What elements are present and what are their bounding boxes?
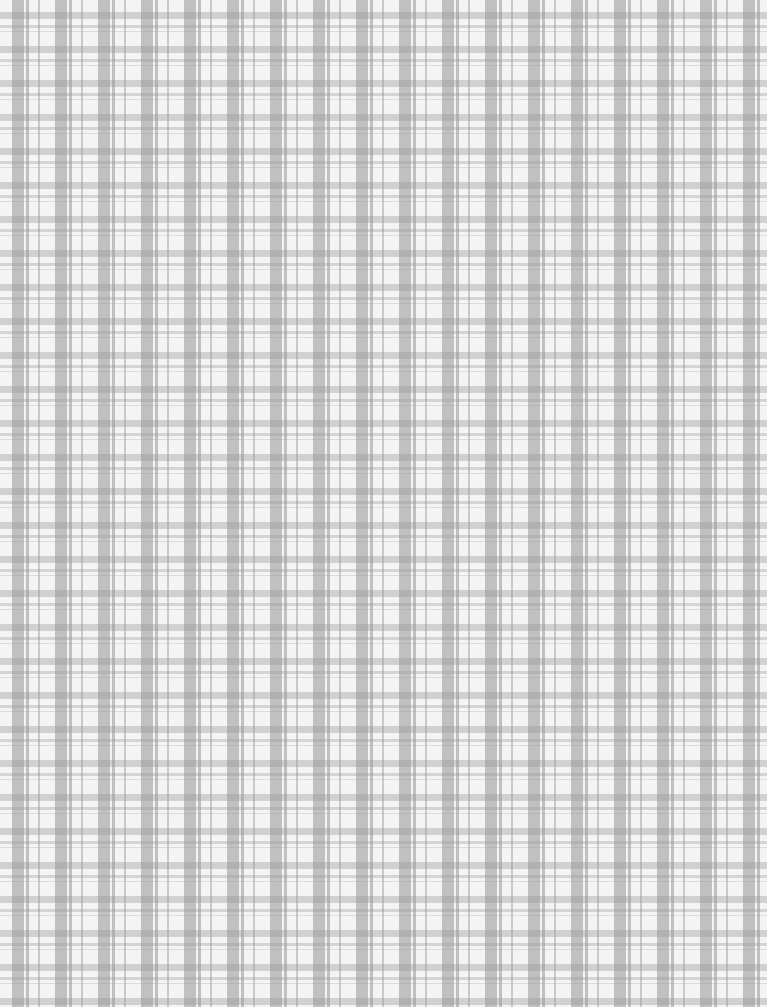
gingham-plaid-pattern	[0, 0, 767, 1007]
